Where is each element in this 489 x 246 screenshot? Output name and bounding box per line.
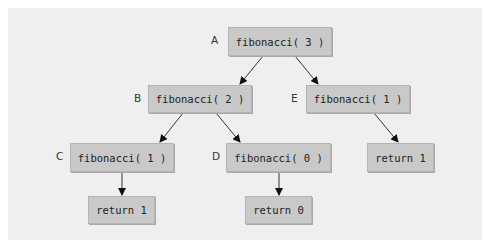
node-label-a: A [211,34,218,46]
node-c-text: fibonacci( 1 ) [78,152,167,164]
node-b-text: fibonacci( 2 ) [156,93,245,105]
node-e-return: return 1 [367,143,434,172]
node-d-return-text: return 0 [253,204,304,216]
node-e-return-text: return 1 [375,152,426,164]
node-a-text: fibonacci( 3 ) [236,36,325,48]
node-d: fibonacci( 0 ) [226,143,331,172]
edge-a-e [295,56,318,84]
edge-e-ret [374,113,398,142]
node-c-return-text: return 1 [96,204,147,216]
edge-a-b [240,56,263,84]
node-label-b: B [134,92,141,104]
node-label-c: C [56,150,63,162]
node-label-d: D [212,150,220,162]
node-e: fibonacci( 1 ) [306,85,410,113]
node-a: fibonacci( 3 ) [228,27,332,56]
edge-b-d [216,113,240,142]
node-d-text: fibonacci( 0 ) [234,152,323,164]
node-e-text: fibonacci( 1 ) [314,93,403,105]
node-c: fibonacci( 1 ) [70,143,174,172]
node-b: fibonacci( 2 ) [148,85,252,113]
edge-b-c [160,113,183,142]
node-label-e: E [291,92,298,104]
node-d-return: return 0 [245,196,312,224]
node-c-return: return 1 [88,196,155,224]
